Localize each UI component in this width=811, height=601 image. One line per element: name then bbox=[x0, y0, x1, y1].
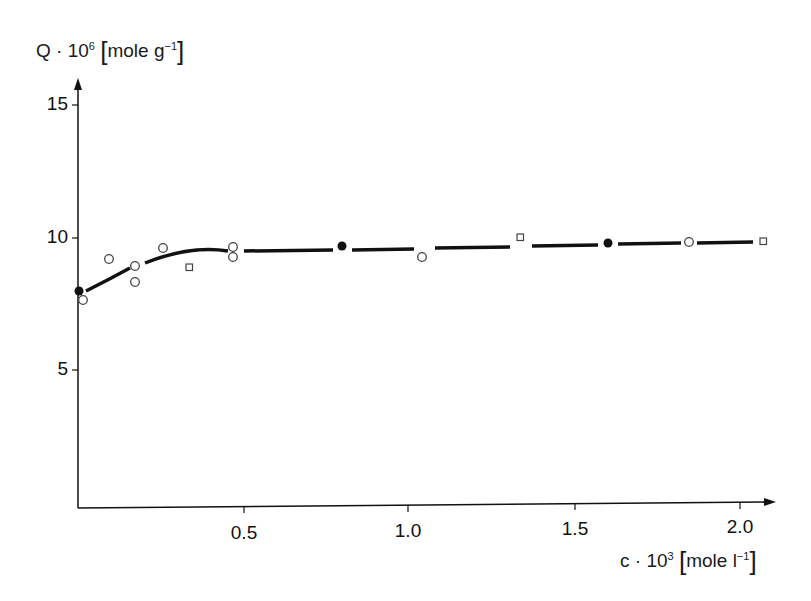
y-tick-10: 10 bbox=[28, 226, 68, 248]
series-filled-circles bbox=[75, 239, 613, 296]
x-tick-1.0: 1.0 bbox=[383, 520, 433, 542]
x-tick-2.0: 2.0 bbox=[715, 516, 765, 538]
x-tick-0.5: 0.5 bbox=[219, 522, 269, 544]
x-axis-arrow-icon bbox=[764, 498, 776, 506]
series-open-circles bbox=[79, 238, 694, 305]
y-axis-label: Q · 106 [mole g−1] bbox=[36, 36, 184, 67]
x-tick-1.5: 1.5 bbox=[550, 518, 600, 540]
x-axis-label: c · 103 [mole l−1] bbox=[620, 546, 757, 577]
y-tick-5: 5 bbox=[28, 358, 68, 380]
y-axis-arrow-icon bbox=[74, 78, 82, 90]
x-axis bbox=[78, 502, 768, 508]
chart-plot-area bbox=[0, 0, 811, 601]
y-tick-15: 15 bbox=[28, 93, 68, 115]
